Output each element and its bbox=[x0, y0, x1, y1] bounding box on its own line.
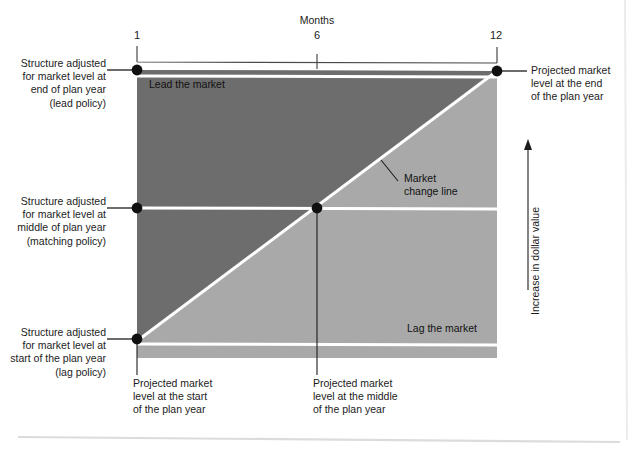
months-axis-title: Months bbox=[286, 14, 348, 27]
callout-matching-policy: Structure adjusted for market level at m… bbox=[0, 195, 106, 248]
month-tick-12: 12 bbox=[484, 29, 508, 42]
point-matching-policy bbox=[132, 203, 143, 214]
month-tick-6: 6 bbox=[306, 29, 328, 42]
point-projected-end bbox=[492, 66, 503, 77]
lead-policy-structure-line bbox=[137, 76, 497, 77]
point-projected-middle bbox=[312, 203, 323, 214]
page-rule bbox=[18, 437, 620, 442]
point-lead-policy bbox=[132, 65, 143, 76]
point-lag-policy bbox=[132, 334, 143, 345]
figure-container: Months 1 6 12 Lead the market Market cha… bbox=[0, 0, 638, 466]
lag-the-market-label: Lag the market bbox=[407, 322, 527, 335]
callout-projected-start: Projected market level at the start of t… bbox=[133, 377, 263, 417]
callout-projected-middle: Projected market level at the middle of … bbox=[313, 377, 453, 417]
increase-in-dollar-value-label: Increase in dollar value bbox=[529, 207, 541, 315]
up-arrow-icon bbox=[524, 139, 532, 150]
callout-lead-policy: Structure adjusted for market level at e… bbox=[0, 57, 106, 110]
market-change-line-label: Market change line bbox=[404, 172, 500, 198]
callout-lag-policy: Structure adjusted for market level at s… bbox=[0, 326, 106, 379]
month-tick-1: 1 bbox=[126, 29, 148, 42]
callout-projected-end: Projected market level at the end of the… bbox=[531, 64, 637, 104]
lead-the-market-label: Lead the market bbox=[149, 78, 289, 91]
